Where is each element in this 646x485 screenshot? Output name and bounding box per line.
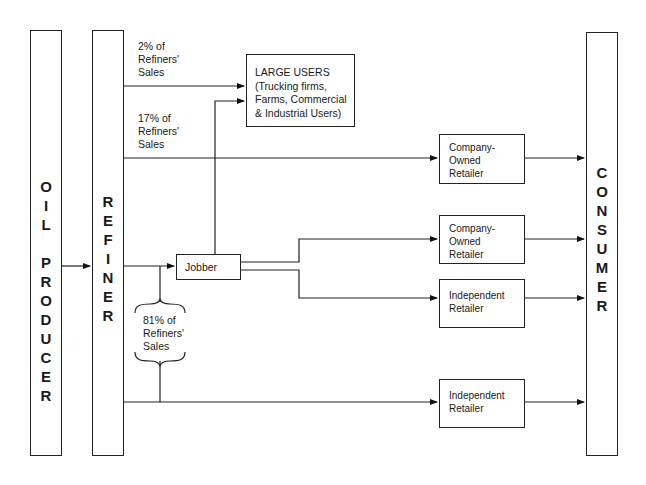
company-owned-retailer-box-1: Company- Owned Retailer — [439, 134, 525, 184]
large-users-desc-line: (Trucking firms, — [255, 80, 354, 94]
company-owned-retailer-box-2: Company- Owned Retailer — [439, 215, 525, 264]
oil-producer-letter: I — [40, 196, 52, 215]
oil-producer-letter: O — [40, 177, 52, 196]
independent-retailer-box-1: Independent Retailer — [439, 279, 525, 328]
jobber-box: Jobber — [176, 254, 241, 280]
consumer-letter: R — [596, 296, 609, 315]
large-users-desc-line: & Industrial Users) — [255, 107, 354, 121]
retailer-label-line: Retailer — [449, 402, 524, 415]
flow-label-2-percent: 2% of Refiners' Sales — [138, 40, 179, 79]
refiner-letter: I — [103, 249, 114, 268]
retailer-label-line: Independent — [449, 289, 524, 302]
flow-label-17-percent: 17% of Refiners' Sales — [138, 112, 179, 151]
oil-producer-letter: L — [40, 215, 52, 234]
flow-label-line: Refiners' — [138, 53, 179, 66]
consumer-letter: O — [596, 182, 609, 201]
retailer-label-line: Retailer — [449, 167, 524, 180]
arrow-jobber-to-large-users — [215, 101, 244, 254]
large-users-desc-line: Farms, Commercial — [255, 93, 354, 107]
flow-label-81-percent: 81% of Refiners' Sales — [143, 314, 184, 353]
refiner-letter: R — [103, 306, 114, 325]
independent-retailer-box-2: Independent Retailer — [439, 379, 525, 428]
retailer-label-line: Company- — [449, 222, 524, 235]
consumer-letter: C — [596, 163, 609, 182]
refiner-letter: N — [103, 268, 114, 287]
retailer-label-line: Owned — [449, 154, 524, 167]
oil-producer-letter: E — [40, 367, 52, 386]
flow-label-line: Refiners' — [138, 125, 179, 138]
consumer-letter: M — [596, 258, 609, 277]
consumer-letter: S — [596, 220, 609, 239]
refiner-box: R E F I N E R — [92, 30, 124, 456]
oil-producer-box: O I L P R O D U C E R — [30, 30, 62, 456]
refiner-letter: E — [103, 211, 114, 230]
flow-label-line: 2% of — [138, 40, 179, 53]
retailer-label-line: Retailer — [449, 248, 524, 261]
flow-label-line: Refiners' — [143, 327, 184, 340]
oil-producer-letter: D — [40, 310, 52, 329]
retailer-label-line: Company- — [449, 141, 524, 154]
flow-label-line: Sales — [143, 340, 184, 353]
consumer-box: C O N S U M E R — [586, 32, 618, 456]
consumer-letter: N — [596, 201, 609, 220]
oil-producer-letter: U — [40, 329, 52, 348]
consumer-letter: E — [596, 277, 609, 296]
flow-label-line: Sales — [138, 66, 179, 79]
retailer-label-line: Retailer — [449, 302, 524, 315]
consumer-letter: U — [596, 239, 609, 258]
large-users-box: LARGE USERS (Trucking firms, Farms, Comm… — [246, 54, 355, 127]
oil-producer-letter: R — [40, 386, 52, 405]
refiner-letter: F — [103, 230, 114, 249]
flow-label-line: 17% of — [138, 112, 179, 125]
oil-producer-letter: P — [40, 253, 52, 272]
retailer-label-line: Independent — [449, 389, 524, 402]
large-users-title: LARGE USERS — [255, 66, 354, 80]
refiner-letter: E — [103, 287, 114, 306]
refiner-letter: R — [103, 192, 114, 211]
arrow-jobber-to-independent-retailer — [240, 270, 437, 298]
flow-label-line: Sales — [138, 138, 179, 151]
oil-producer-letter: R — [40, 272, 52, 291]
jobber-label: Jobber — [185, 261, 217, 273]
retailer-label-line: Owned — [449, 235, 524, 248]
flow-label-line: 81% of — [143, 314, 184, 327]
oil-producer-letter: C — [40, 348, 52, 367]
oil-producer-letter: O — [40, 291, 52, 310]
arrow-jobber-to-company-retailer-2 — [240, 239, 437, 262]
